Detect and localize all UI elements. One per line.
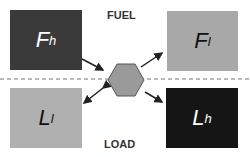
box-fl: Fl [167, 11, 238, 71]
box-fh: Fh [10, 10, 82, 70]
fuel-label: FUEL [107, 9, 136, 21]
fuel-load-diagram: Fh Fl Ll Lh FUEL LOAD [0, 0, 250, 157]
hexagon [108, 64, 144, 96]
load-label: LOAD [104, 138, 135, 150]
box-lh: Lh [166, 88, 238, 148]
box-ll: Ll [10, 88, 82, 148]
